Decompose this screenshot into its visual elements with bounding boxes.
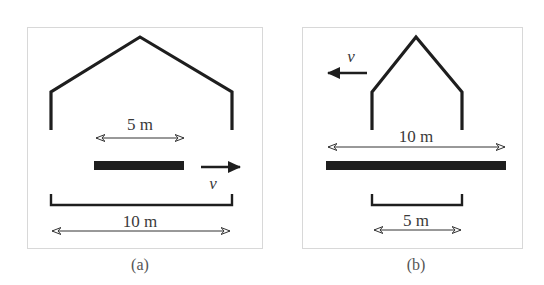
- pole-length-label: 5 m: [127, 115, 153, 134]
- pole: [94, 161, 184, 170]
- panel-a: 5 m v 10 m (a): [28, 28, 263, 275]
- velocity-label: v: [347, 47, 355, 66]
- figure-canvas: 5 m v 10 m (a) v 10 m 5 m (b): [0, 0, 544, 285]
- pole-length-label: 10 m: [399, 127, 433, 146]
- velocity-label: v: [209, 174, 217, 193]
- barn-width-label: 10 m: [123, 212, 157, 231]
- barn-width-label: 5 m: [403, 211, 429, 230]
- panel-b: v 10 m 5 m (b): [303, 28, 523, 275]
- panel-b-caption: (b): [407, 256, 426, 274]
- panel-a-caption: (a): [131, 256, 149, 274]
- pole: [326, 161, 506, 170]
